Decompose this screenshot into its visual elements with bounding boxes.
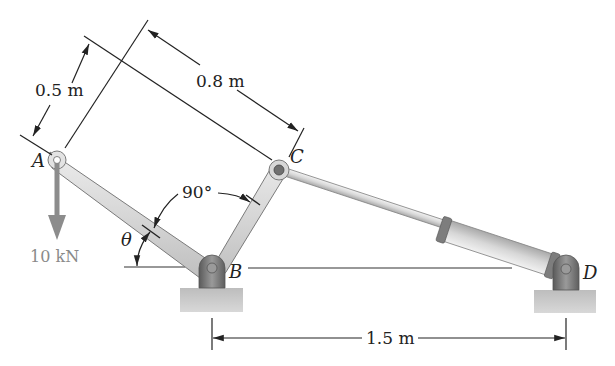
ground-support-b [180, 288, 243, 312]
point-label-c: C [290, 146, 304, 167]
load-arrowhead-icon [48, 215, 66, 240]
point-label-b: B [228, 261, 242, 282]
hydraulic-cylinder [436, 216, 561, 279]
right-angle-arc-right [218, 193, 250, 202]
angle-label-theta: θ [121, 229, 132, 250]
dimension-line-08m-right [237, 90, 298, 131]
ground-support-d [534, 290, 596, 313]
dimension-label-08m: 0.8 m [196, 71, 245, 91]
right-angle-arc-left [154, 194, 178, 228]
dimension-label-05m: 0.5 m [35, 80, 84, 100]
pin-c [274, 165, 284, 175]
point-label-d: D [582, 262, 598, 283]
point-label-a: A [30, 150, 45, 171]
dimension-line-08m-left [148, 30, 200, 65]
dimension-label-15m: 1.5 m [366, 328, 415, 348]
pin-b [207, 263, 217, 273]
angle-label-90: 90° [182, 182, 212, 202]
pin-d [561, 264, 571, 274]
diagram-canvas: 0.5 m 0.8 m 1.5 m 10 kN 90° θ A B C D [0, 0, 615, 366]
pin-a [54, 157, 61, 164]
mechanism-diagram: 0.5 m 0.8 m 1.5 m 10 kN 90° θ A B C D [0, 0, 615, 366]
dimension-line-05m-lower [33, 105, 50, 136]
piston-rod [278, 166, 447, 228]
extension-line-top [84, 36, 272, 160]
load-label: 10 kN [30, 247, 79, 266]
bent-lever-abc [50, 152, 286, 283]
dimension-line-05m-upper [72, 44, 89, 83]
